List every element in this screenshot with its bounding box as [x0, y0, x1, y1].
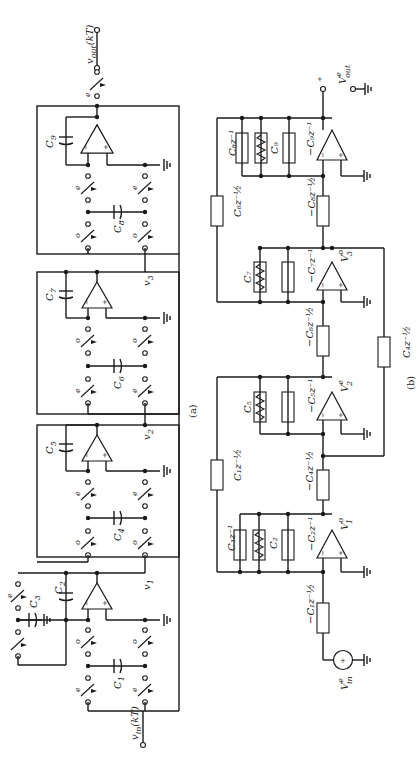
label-c5: C₅: [242, 401, 253, 413]
stage-c9: − + C9 C8 e e o o: [44, 104, 170, 272]
phase-label: e: [5, 593, 14, 598]
c5-label: C5: [44, 441, 58, 454]
phase-label: e: [130, 388, 139, 393]
svg-text:−: −: [83, 299, 91, 305]
svg-text:−: −: [319, 282, 327, 288]
c7-label: C7: [44, 287, 58, 301]
svg-text:+: +: [316, 76, 324, 82]
v3-label-b: Vo3: [336, 250, 354, 262]
phase-label: o: [73, 639, 82, 644]
phase-label: e: [73, 185, 82, 190]
svg-text:+: +: [337, 282, 345, 288]
svg-text:+: +: [101, 600, 109, 606]
vout-terminal-b: [321, 87, 326, 92]
stage-c2-input: v1 C2 − + C3 e: [5, 254, 179, 748]
phase-label: o: [130, 338, 139, 343]
phase-label: o: [73, 233, 82, 238]
switch-out-e: [90, 70, 106, 99]
stage-c7: C7 − + v3 C6 o o e e: [44, 270, 198, 425]
element-m-c6-half: [317, 326, 329, 356]
label-m-c6-half: −C₆z⁻½: [304, 307, 315, 347]
vin-label-b: Vein: [336, 676, 354, 690]
label-m-c1-half: −C₁z⁻½: [305, 584, 316, 624]
element-m-c4-half: [317, 470, 329, 500]
phase-label: e: [73, 491, 82, 496]
element-m-c1-half: [317, 603, 329, 633]
v1-label: v1: [141, 579, 155, 590]
caption-a: (a): [187, 404, 198, 418]
label-c2: C₂: [268, 537, 279, 549]
vout-label-b: Veout: [334, 64, 352, 84]
phase-label: e: [73, 388, 82, 393]
svg-text:Veout: Veout: [334, 64, 352, 84]
phase-label: o: [73, 338, 82, 343]
phase-label: e: [130, 185, 139, 190]
source-polarity: +: [340, 657, 346, 665]
element-c6-half: [211, 196, 223, 226]
phase-label: o: [130, 639, 139, 644]
c6-label: C6: [112, 376, 126, 389]
svg-text:−: −: [83, 452, 91, 458]
svg-text:−: −: [83, 600, 91, 606]
phase-label: e: [83, 92, 92, 97]
v1-label-b: Vo1: [336, 518, 354, 530]
label-c6-half: C₆z⁻½: [232, 185, 243, 217]
svg-text:+: +: [337, 152, 345, 158]
c1-label: C1: [112, 676, 126, 689]
label-m-c5z1: −C₅z⁻¹: [306, 378, 317, 413]
label-c4-half: C₄z⁻½: [401, 326, 412, 358]
label-m-c2z1: −C₂z⁻¹: [306, 516, 317, 551]
v2-label: v2: [141, 429, 155, 440]
v3-label: v3: [141, 275, 155, 286]
phase-label: o: [130, 540, 139, 545]
phase-label: o: [130, 233, 139, 238]
svg-text:+: +: [101, 452, 109, 458]
svg-text:Vo3: Vo3: [336, 250, 354, 262]
svg-text:Vein: Vein: [336, 676, 354, 690]
element-m-c8-half: [317, 196, 329, 226]
element-c1-half: [211, 460, 223, 490]
label-m-c9z1: −C₉z⁻¹: [305, 121, 316, 156]
c4-label: C4: [112, 528, 126, 541]
svg-text:Vo1: Vo1: [336, 518, 354, 530]
stage-c5: v2 C5 − + C4 e e o: [37, 423, 170, 573]
label-c3z1: C₃z⁻¹: [226, 525, 237, 551]
svg-text:+: +: [337, 550, 345, 556]
panel-a-switched-capacitor-circuit: vout(kT) e − + C9: [5, 25, 198, 748]
phase-label: e: [130, 687, 139, 692]
circuit-figure: vout(kT) e − + C9: [0, 0, 419, 760]
v2-label-b: Ve2: [336, 380, 354, 392]
caption-b: (b): [405, 376, 416, 390]
element-c4-half: [378, 337, 390, 367]
phase-label: e: [130, 491, 139, 496]
c8-label: C8: [112, 220, 126, 233]
label-m-c8-half: −C₈z⁻½: [306, 177, 317, 217]
svg-text:+: +: [337, 412, 345, 418]
loop-stage4: [37, 106, 179, 254]
label-m-c7z1: −C₇z⁻¹: [306, 248, 317, 283]
panel-b-equivalent-circuit: + Veout C₈z⁻¹ C₉ −C₉z⁻¹ − +: [211, 64, 416, 690]
svg-text:−: −: [319, 412, 327, 418]
label-c8z1: C₈z⁻¹: [227, 130, 238, 156]
phase-label: o: [73, 540, 82, 545]
c9-label: C9: [44, 135, 58, 148]
label-c1-half: C₁z⁻½: [232, 449, 243, 481]
svg-text:−: −: [319, 152, 327, 158]
loop-stage3: [37, 272, 179, 414]
label-m-c4-half: −C₄z⁻½: [304, 451, 315, 491]
label-c9: C₉: [269, 142, 280, 154]
c2-label: C2: [53, 581, 67, 594]
svg-text:−: −: [319, 550, 327, 556]
c3-label: C3: [28, 595, 42, 608]
svg-text:Ve2: Ve2: [336, 380, 354, 392]
svg-text:−: −: [82, 144, 90, 150]
svg-text:+: +: [101, 299, 109, 305]
phase-label: e: [73, 687, 82, 692]
svg-text:+: +: [102, 144, 110, 150]
label-c7: C₇: [242, 271, 253, 283]
loop-stage2: [37, 425, 179, 557]
